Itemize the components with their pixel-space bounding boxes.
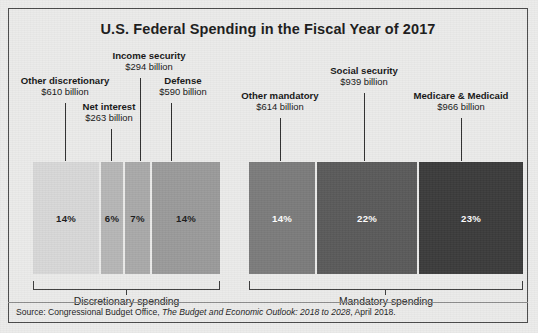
source-publication-title: The Budget and Economic Outlook: 2018 to… [162,307,350,317]
source-divider [8,302,528,303]
bracket-tick-mandatory [385,290,386,295]
bar-social-security[interactable]: 22% [317,162,417,274]
bracket-discretionary [33,281,220,290]
bar-other-discretionary[interactable]: 14% [33,162,99,274]
bar-other-mandatory[interactable]: 14% [249,162,315,274]
source-prefix: Source: Congressional Budget Office, [16,307,160,317]
source-note: Source: Congressional Budget Office, The… [16,307,396,317]
bar-pct-medicare-medicaid: 23% [461,213,481,224]
bar-pct-other-discretionary: 14% [56,213,76,224]
bar-pct-defense: 14% [176,213,196,224]
bar-net-interest[interactable]: 6% [101,162,123,274]
bar-medicare-medicaid[interactable]: 23% [419,162,523,274]
bars-layer: 14% 6% 7% 14% 14% 22% 23% [9,9,527,322]
figure-canvas: U.S. Federal Spending in the Fiscal Year… [0,0,538,333]
bracket-tick-discretionary [126,290,127,295]
source-suffix: , April 2018. [350,307,395,317]
bar-income-security[interactable]: 7% [125,162,150,274]
bar-pct-net-interest: 6% [105,213,119,224]
bar-pct-income-security: 7% [130,213,144,224]
bar-defense[interactable]: 14% [152,162,220,274]
bar-pct-social-security: 22% [357,213,377,224]
bracket-mandatory [249,281,523,290]
bar-pct-other-mandatory: 14% [272,213,292,224]
figure-frame: U.S. Federal Spending in the Fiscal Year… [8,8,528,323]
